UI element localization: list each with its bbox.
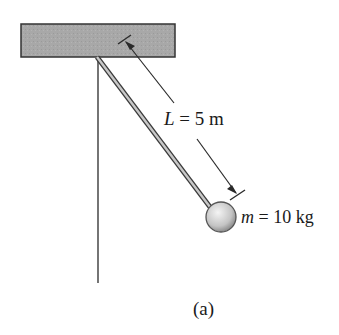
length-label: L = 5 m [164, 109, 224, 128]
pendulum-rod [97, 57, 210, 207]
mass-label: m = 10 kg [241, 208, 314, 226]
arrowhead-down-icon [227, 185, 237, 194]
length-variable: L [164, 108, 175, 129]
mass-value: = 10 kg [254, 207, 314, 227]
pendulum-diagram [0, 0, 339, 335]
mass-variable: m [241, 207, 254, 227]
pendulum-mass-ball [206, 202, 236, 232]
ceiling-support [21, 24, 175, 57]
figure-caption: (a) [193, 299, 214, 318]
length-value: = 5 m [175, 108, 224, 129]
